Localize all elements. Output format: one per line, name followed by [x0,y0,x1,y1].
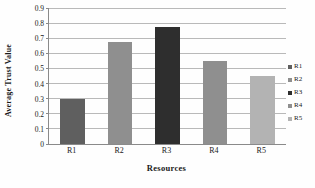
bar-r4 [203,61,228,144]
legend-swatch-icon [288,104,292,108]
plot-area [48,8,285,144]
x-axis-tick-label: R3 [143,146,190,155]
x-axis-tick-label: R2 [95,146,142,155]
legend-swatch-icon [288,117,292,121]
bar-r3 [155,27,180,144]
bar-r1 [60,99,85,144]
y-axis-tick-labels: 00.10.20.30.40.50.60.70.80.9 [18,8,44,144]
y-axis-tick-label: 0.7 [18,34,44,43]
legend-entry-r5[interactable]: R5 [288,112,314,125]
bar-chart-figure: Average Trust Value 00.10.20.30.40.50.60… [0,0,315,188]
y-axis-tick-label: 0 [18,140,44,149]
x-axis-tick-labels: R1R2R3R4R5 [48,146,285,160]
legend-label: R2 [294,76,302,83]
legend-label: R1 [294,63,302,70]
x-axis-tick-label: R1 [48,146,95,155]
x-axis-tick-label: R4 [190,146,237,155]
legend-entry-r4[interactable]: R4 [288,99,314,112]
y-axis-tick-label: 0.5 [18,64,44,73]
legend-label: R5 [294,115,302,122]
y-axis-tick-label: 0.8 [18,19,44,28]
legend-swatch-icon [288,78,292,82]
bar-r2 [108,42,133,144]
legend-entry-r2[interactable]: R2 [288,73,314,86]
bar-r5 [250,76,275,144]
legend-label: R3 [294,89,302,96]
y-axis-title-text: Average Trust Value [5,43,14,116]
legend-label: R4 [294,102,302,109]
x-axis-title: Resources [48,163,285,173]
y-axis-tick-label: 0.2 [18,109,44,118]
x-axis-tick-label: R5 [238,146,285,155]
legend-entry-r3[interactable]: R3 [288,86,314,99]
legend-entry-r1[interactable]: R1 [288,60,314,73]
chart-legend: R1R2R3R4R5 [288,60,314,125]
y-axis-tick-label: 0.3 [18,94,44,103]
legend-swatch-icon [288,91,292,95]
y-axis-tick-label: 0.1 [18,124,44,133]
y-axis-tick-label: 0.6 [18,49,44,58]
y-axis-tick-label: 0.4 [18,79,44,88]
bars-group [49,8,286,144]
y-axis-tick-label: 0.9 [18,4,44,13]
legend-swatch-icon [288,65,292,69]
y-axis-title: Average Trust Value [2,30,16,130]
